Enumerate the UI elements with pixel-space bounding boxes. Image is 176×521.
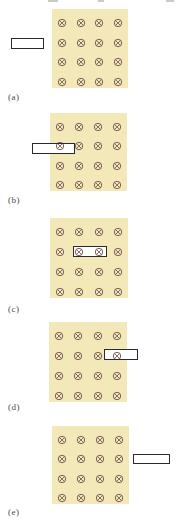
b-into-page-icon [114,450,124,460]
b-into-page-icon [74,223,84,233]
b-into-page-icon [57,489,67,499]
panel-label-e: (e) [8,507,20,517]
b-into-page-icon [113,223,123,233]
b-into-page-icon [93,347,103,357]
b-into-page-icon [94,73,104,83]
b-into-page-icon [57,34,67,44]
panel-label-d: (d) [8,402,20,412]
b-into-page-icon [73,367,83,377]
cropped-text-fragment [166,0,174,2]
b-into-page-icon [94,14,104,24]
cropped-text-fragment [48,0,58,2]
b-into-page-icon [113,73,123,83]
b-into-page-icon [94,283,104,293]
b-into-page-icon [93,387,103,397]
b-into-page-icon [74,118,84,128]
b-into-page-icon [55,157,65,167]
figure-container: (a)(b)(c)(d)(e) [0,0,176,521]
b-into-page-icon [112,327,122,337]
cropped-text-fragment [98,0,104,2]
b-into-page-icon [76,470,86,480]
b-into-page-icon [74,283,84,293]
b-into-page-icon [54,347,64,357]
b-into-page-icon [76,450,86,460]
b-into-page-icon [95,450,105,460]
b-into-page-icon [76,431,86,441]
b-into-page-icon [93,367,103,377]
b-into-page-icon [57,450,67,460]
b-into-page-icon [74,176,84,186]
b-into-page-icon [76,14,86,24]
b-into-page-icon [57,53,67,63]
conducting-loop-e [133,454,170,464]
b-into-page-icon [55,176,65,186]
b-into-page-icon [113,263,123,273]
b-into-page-icon [112,157,122,167]
b-into-page-icon [55,223,65,233]
panel-label-b: (b) [8,195,20,205]
b-into-page-icon [94,53,104,63]
b-into-page-icon [113,243,123,253]
b-into-page-icon [57,73,67,83]
conducting-loop-c [73,246,107,257]
panel-label-c: (c) [8,304,20,314]
b-into-page-icon [74,263,84,273]
b-into-page-icon [54,387,64,397]
b-into-page-icon [54,367,64,377]
b-into-page-icon [112,137,122,147]
b-into-page-icon [57,470,67,480]
b-into-page-icon [112,367,122,377]
b-into-page-icon [93,327,103,337]
b-into-page-icon [113,283,123,293]
b-into-page-icon [55,118,65,128]
b-into-page-icon [114,489,124,499]
b-into-page-icon [112,176,122,186]
b-into-page-icon [55,283,65,293]
b-into-page-icon [93,157,103,167]
b-into-page-icon [73,347,83,357]
b-into-page-icon [93,137,103,147]
b-into-page-icon [113,53,123,63]
b-into-page-icon [74,157,84,167]
conducting-loop-b [32,143,75,154]
b-into-page-icon [94,263,104,273]
b-into-page-icon [55,243,65,253]
b-into-page-icon [55,263,65,273]
b-into-page-icon [114,470,124,480]
b-into-page-icon [76,34,86,44]
b-into-page-icon [74,137,84,147]
b-into-page-icon [112,118,122,128]
b-into-page-icon [94,223,104,233]
b-into-page-icon [76,73,86,83]
b-into-page-icon [113,34,123,44]
b-into-page-icon [76,489,86,499]
b-into-page-icon [54,327,64,337]
b-into-page-icon [94,34,104,44]
b-into-page-icon [57,431,67,441]
b-into-page-icon [93,176,103,186]
b-into-page-icon [76,53,86,63]
b-into-page-icon [73,387,83,397]
b-into-page-icon [95,489,105,499]
panel-label-a: (a) [8,92,20,102]
b-into-page-icon [113,14,123,24]
b-into-page-icon [93,118,103,128]
b-into-page-icon [95,470,105,480]
conducting-loop-a [11,38,44,49]
conducting-loop-d [104,349,138,360]
b-into-page-icon [114,431,124,441]
b-into-page-icon [73,327,83,337]
b-into-page-icon [112,387,122,397]
b-into-page-icon [57,14,67,24]
b-into-page-icon [95,431,105,441]
